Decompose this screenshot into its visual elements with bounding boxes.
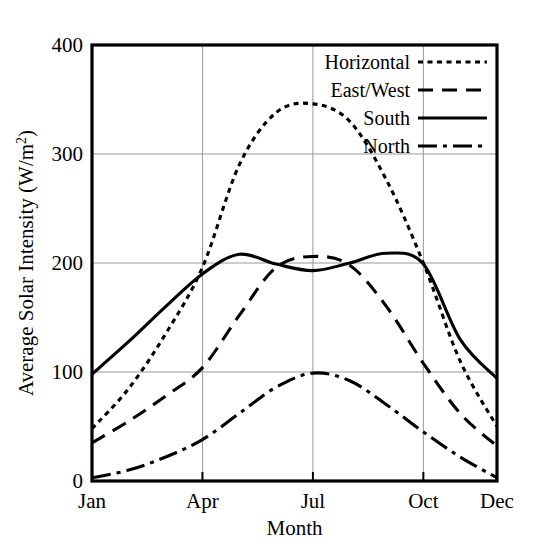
data-series-group <box>92 103 497 478</box>
y-tick-label: 400 <box>52 33 84 57</box>
y-tick-label: 300 <box>52 142 84 166</box>
solar-intensity-chart: 0100200300400 JanAprJulOctDec MonthAvera… <box>0 0 541 544</box>
x-tick-label: Dec <box>480 489 514 513</box>
y-axis-title-text: Average Solar Intensity (W/m2) <box>14 130 38 396</box>
series-line-north <box>92 373 497 478</box>
chart-canvas: 0100200300400 JanAprJulOctDec MonthAvera… <box>0 0 541 544</box>
x-tick-label: Oct <box>408 489 438 513</box>
x-tick-label: Jul <box>301 489 326 513</box>
y-tick-label: 100 <box>52 360 84 384</box>
legend-label-east-west: East/West <box>331 79 411 101</box>
legend-label-horizontal: Horizontal <box>324 51 410 73</box>
y-axis-title: Average Solar Intensity (W/m2) <box>14 130 38 396</box>
y-axis-title-exponent: 2 <box>14 137 29 144</box>
x-tick-label: Jan <box>78 489 106 513</box>
legend: HorizontalEast/WestSouthNorth <box>324 51 487 157</box>
y-axis-title-main: Average Solar Intensity (W/m <box>14 144 38 396</box>
y-tick-label: 200 <box>52 251 84 275</box>
series-line-south <box>92 253 497 379</box>
grid-lines <box>92 45 497 481</box>
x-axis-title: Month <box>266 516 323 540</box>
axis-titles: MonthAverage Solar Intensity (W/m2) <box>14 130 323 540</box>
x-axis-tick-labels: JanAprJulOctDec <box>78 489 514 513</box>
legend-label-south: South <box>363 107 410 129</box>
legend-label-north: North <box>363 135 410 157</box>
y-axis-tick-labels: 0100200300400 <box>52 33 84 493</box>
x-tick-label: Apr <box>186 489 219 513</box>
y-axis-title-tail: ) <box>14 130 38 137</box>
